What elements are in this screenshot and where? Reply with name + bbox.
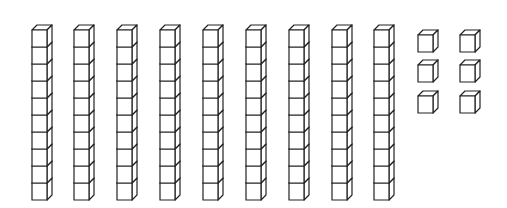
cube-front-face: [374, 149, 389, 166]
unit-cube: [418, 91, 438, 113]
cube-front-face: [374, 115, 389, 132]
cube-front-face: [32, 81, 47, 98]
cube-front-face: [117, 30, 132, 47]
cube-front-face: [160, 115, 175, 132]
cube-front-face: [460, 65, 475, 82]
rod-cube: [74, 25, 94, 47]
cube-front-face: [374, 183, 389, 200]
cube-front-face: [332, 183, 347, 200]
cube-front-face: [160, 149, 175, 166]
cube-front-face: [289, 64, 304, 81]
cube-front-face: [117, 81, 132, 98]
tens-rod: [332, 25, 352, 200]
cube-front-face: [74, 166, 89, 183]
rod-cube: [332, 25, 352, 47]
cube-front-face: [374, 132, 389, 149]
cube-front-face: [32, 98, 47, 115]
cube-front-face: [289, 30, 304, 47]
cube-front-face: [160, 132, 175, 149]
cube-front-face: [117, 166, 132, 183]
cube-front-face: [289, 81, 304, 98]
base-ten-blocks-diagram: [0, 0, 507, 208]
cube-front-face: [374, 81, 389, 98]
cube-front-face: [203, 47, 218, 64]
cube-front-face: [117, 47, 132, 64]
cube-front-face: [460, 35, 475, 52]
cube-front-face: [246, 115, 261, 132]
unit-cube: [418, 30, 438, 52]
cube-front-face: [117, 132, 132, 149]
tens-rod: [32, 25, 52, 200]
cube-front-face: [246, 98, 261, 115]
cube-front-face: [74, 81, 89, 98]
cube-front-face: [289, 183, 304, 200]
unit-cube: [418, 60, 438, 82]
rod-cube: [32, 25, 52, 47]
cube-front-face: [418, 35, 433, 52]
cube-front-face: [74, 149, 89, 166]
cube-front-face: [32, 183, 47, 200]
cube-front-face: [418, 96, 433, 113]
cube-front-face: [32, 149, 47, 166]
cube-front-face: [32, 47, 47, 64]
cube-front-face: [203, 132, 218, 149]
cube-front-face: [246, 47, 261, 64]
cube-front-face: [160, 183, 175, 200]
cube-front-face: [374, 47, 389, 64]
cube-front-face: [332, 166, 347, 183]
cube-front-face: [203, 115, 218, 132]
unit-cube: [460, 30, 480, 52]
cube-front-face: [160, 166, 175, 183]
cube-front-face: [203, 166, 218, 183]
rod-cube: [289, 25, 309, 47]
cube-front-face: [374, 166, 389, 183]
tens-rod: [117, 25, 137, 200]
cube-front-face: [332, 64, 347, 81]
cube-front-face: [289, 132, 304, 149]
cube-front-face: [117, 64, 132, 81]
cube-front-face: [117, 149, 132, 166]
cube-front-face: [74, 98, 89, 115]
cube-front-face: [418, 65, 433, 82]
cube-front-face: [246, 166, 261, 183]
tens-rod: [246, 25, 266, 200]
tens-rod: [203, 25, 223, 200]
cube-front-face: [289, 115, 304, 132]
cube-front-face: [74, 132, 89, 149]
cube-front-face: [332, 115, 347, 132]
cube-front-face: [32, 115, 47, 132]
rod-cube: [246, 25, 266, 47]
unit-cube: [460, 60, 480, 82]
cube-front-face: [332, 132, 347, 149]
cube-front-face: [203, 98, 218, 115]
cube-front-face: [74, 183, 89, 200]
cube-front-face: [246, 149, 261, 166]
cube-front-face: [160, 47, 175, 64]
rod-cube: [374, 25, 394, 47]
cube-front-face: [332, 81, 347, 98]
cube-front-face: [289, 98, 304, 115]
unit-cubes: [418, 30, 480, 113]
cube-front-face: [246, 81, 261, 98]
cube-front-face: [32, 166, 47, 183]
cube-front-face: [246, 64, 261, 81]
cube-front-face: [203, 149, 218, 166]
rod-cube: [203, 25, 223, 47]
cube-front-face: [117, 183, 132, 200]
cube-front-face: [246, 30, 261, 47]
cube-front-face: [160, 98, 175, 115]
cube-front-face: [74, 64, 89, 81]
cube-front-face: [32, 64, 47, 81]
rod-cube: [160, 25, 180, 47]
cube-front-face: [246, 183, 261, 200]
cube-front-face: [117, 115, 132, 132]
cube-front-face: [374, 64, 389, 81]
cube-front-face: [74, 30, 89, 47]
rod-cube: [117, 25, 137, 47]
cube-front-face: [160, 30, 175, 47]
cube-front-face: [203, 183, 218, 200]
cube-front-face: [203, 30, 218, 47]
cube-front-face: [117, 98, 132, 115]
blocks-canvas: [0, 0, 507, 208]
cube-front-face: [74, 47, 89, 64]
